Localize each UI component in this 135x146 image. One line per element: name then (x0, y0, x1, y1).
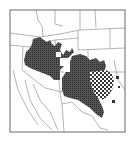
distribution-map (0, 0, 135, 146)
